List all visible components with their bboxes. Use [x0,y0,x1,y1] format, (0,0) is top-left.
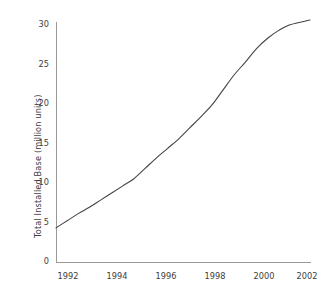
plot-area [0,0,326,297]
chart-container: Total Installed Base (million units) 30 … [0,0,326,297]
data-series-line [56,20,310,228]
